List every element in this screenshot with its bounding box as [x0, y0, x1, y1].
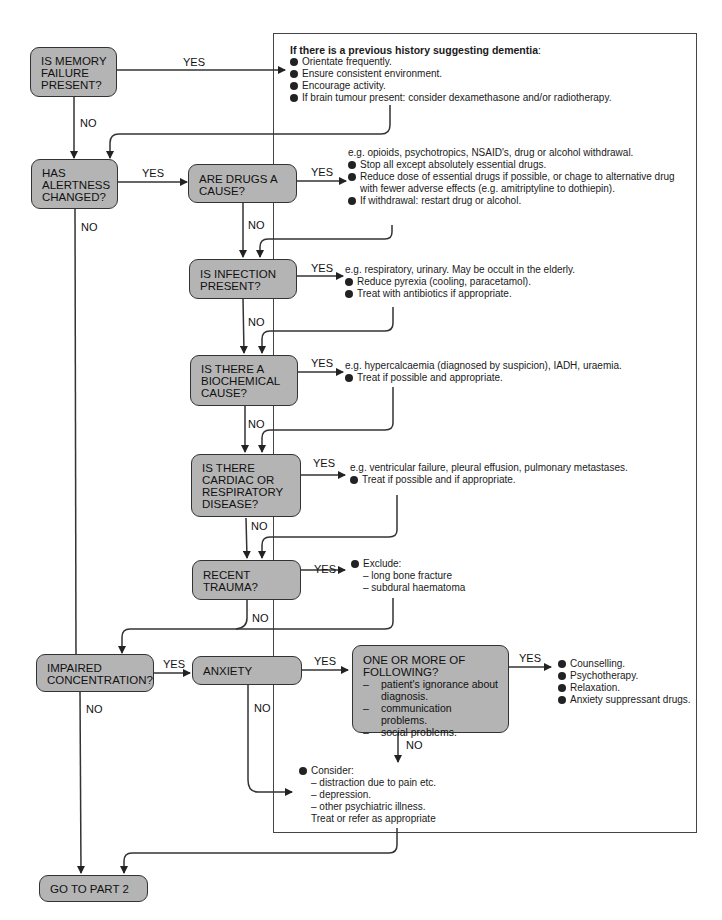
note-intro: e.g. ventricular failure, pleural effusi… — [350, 462, 628, 474]
note-biochemical: e.g. hypercalcaemia (diagnosed by suspic… — [345, 360, 622, 384]
bullet-item: Treat if possible and appropriate. — [345, 372, 622, 384]
note-footer: Treat or refer as appropriate — [299, 813, 436, 825]
bullet-item: Counselling. — [558, 658, 691, 670]
sub-item: – distraction due to pain etc. — [299, 777, 436, 789]
edge-label-no: NO — [86, 703, 103, 715]
node-text: ARE DRUGS A — [199, 173, 286, 185]
node-text: CARDIAC OR — [202, 474, 290, 486]
edge-label-yes: YES — [183, 56, 205, 68]
following-item: –communication problems. — [363, 702, 498, 726]
following-item: –patient's ignorance about — [363, 678, 498, 690]
bullet-item: Reduce pyrexia (cooling, paracetamol). — [345, 276, 575, 288]
edge-label-yes: YES — [314, 655, 336, 667]
edge-label-yes: YES — [519, 652, 541, 664]
sub-item: – long bone fracture — [351, 570, 465, 582]
note-intro: e.g. opioids, psychotropics, NSAID's, dr… — [348, 147, 675, 159]
bullet-item: Encourage activity. — [290, 80, 611, 92]
edge-label-yes: YES — [142, 167, 164, 179]
bullet-item: Reduce dose of essential drugs if possib… — [348, 171, 675, 183]
bullet-item: Stop all except absolutely essential dru… — [348, 159, 675, 171]
note-anxiety-interventions: Counselling. Psychotherapy. Relaxation. … — [558, 658, 691, 706]
edge-label-no: NO — [80, 117, 97, 129]
node-go-to-part-2: GO TO PART 2 — [39, 875, 148, 902]
bullet-item: Anxiety suppressant drugs. — [558, 694, 691, 706]
node-text: ANXIETY — [203, 665, 291, 677]
node-text: PRESENT? — [41, 79, 106, 91]
note-trauma: Exclude: – long bone fracture – subdural… — [351, 558, 465, 594]
node-text: BIOCHEMICAL — [201, 375, 287, 387]
following-item: –social problems. — [363, 726, 498, 738]
node-text: IS THERE — [202, 462, 290, 474]
node-text: CONCENTRATION? — [47, 674, 143, 686]
node-drugs-cause: ARE DRUGS A CAUSE? — [188, 164, 297, 203]
bullet-continuation: with fewer adverse effects (e.g. amitrip… — [348, 183, 675, 195]
node-anxiety: ANXIETY — [192, 656, 302, 685]
note-intro: e.g. respiratory, urinary. May be occult… — [345, 264, 575, 276]
node-text: DISEASE? — [202, 498, 290, 510]
node-cardiac-respiratory: IS THERE CARDIAC OR RESPIRATORY DISEASE? — [191, 454, 301, 517]
node-text: ONE OR MORE OF — [363, 654, 498, 666]
note-title: If there is a previous history suggestin… — [290, 44, 611, 56]
bullet-item: Ensure consistent environment. — [290, 68, 611, 80]
edge-label-no: NO — [406, 739, 423, 751]
node-text: IMPAIRED — [47, 662, 143, 674]
edge-label-no: NO — [251, 520, 268, 532]
edge-label-yes: YES — [311, 357, 333, 369]
node-text: FOLLOWING? — [363, 666, 498, 678]
note-consider: Consider: – distraction due to pain etc.… — [299, 765, 436, 825]
edge-label-yes: YES — [311, 166, 333, 178]
node-text: ALERTNESS — [42, 179, 107, 191]
node-infection-present: IS INFECTION PRESENT? — [189, 259, 297, 299]
node-recent-trauma: RECENT TRAUMA? — [192, 560, 301, 600]
bullet-item: If brain tumour present: consider dexame… — [290, 92, 611, 104]
note-infection: e.g. respiratory, urinary. May be occult… — [345, 264, 575, 300]
edge-label-no: NO — [252, 612, 269, 624]
node-text: CAUSE? — [199, 185, 286, 197]
node-biochemical-cause: IS THERE A BIOCHEMICAL CAUSE? — [190, 355, 298, 406]
node-text: IS THERE A — [201, 363, 287, 375]
node-text: GO TO PART 2 — [50, 883, 137, 895]
bullet-item: Relaxation. — [558, 682, 691, 694]
edge-label-no: NO — [248, 316, 265, 328]
note-intro: e.g. hypercalcaemia (diagnosed by suspic… — [345, 360, 622, 372]
note-cardiac: e.g. ventricular failure, pleural effusi… — [350, 462, 628, 486]
node-memory-failure: IS MEMORY FAILURE PRESENT? — [30, 47, 117, 97]
edge-label-yes: YES — [314, 563, 336, 575]
edge-label-yes: YES — [313, 457, 335, 469]
node-text: PRESENT? — [200, 280, 286, 292]
edge-label-no: NO — [248, 418, 265, 430]
edge-label-no: NO — [81, 221, 98, 233]
node-text: CHANGED? — [42, 191, 107, 203]
following-item-continuation: diagnosis. — [363, 690, 498, 702]
bullet-item: Exclude: — [351, 558, 465, 570]
edge-label-yes: YES — [311, 262, 333, 274]
sub-item: – subdural haematoma — [351, 582, 465, 594]
node-alertness-changed: HAS ALERTNESS CHANGED? — [31, 159, 118, 209]
node-text: FAILURE — [41, 67, 106, 79]
edge-label-no: NO — [254, 702, 271, 714]
bullet-item: Orientate frequently. — [290, 56, 611, 68]
bullet-item: Treat with antibiotics if appropriate. — [345, 288, 575, 300]
node-text: RECENT — [203, 569, 290, 581]
sub-item: – other psychiatric illness. — [299, 801, 436, 813]
note-dementia: If there is a previous history suggestin… — [290, 44, 611, 104]
bullet-item: Consider: — [299, 765, 436, 777]
node-text: HAS — [42, 167, 107, 179]
edge-label-yes: YES — [163, 658, 185, 670]
edge-label-no: NO — [248, 219, 265, 231]
note-drugs: e.g. opioids, psychotropics, NSAID's, dr… — [348, 147, 675, 207]
node-text: RESPIRATORY — [202, 486, 290, 498]
bullet-item: Treat if possible and if appropriate. — [350, 474, 628, 486]
bullet-item: Psychotherapy. — [558, 670, 691, 682]
sub-item: – depression. — [299, 789, 436, 801]
bullet-item: If withdrawal: restart drug or alcohol. — [348, 195, 675, 207]
node-text: CAUSE? — [201, 387, 287, 399]
node-one-or-more-following: ONE OR MORE OF FOLLOWING? –patient's ign… — [352, 645, 509, 733]
node-text: IS INFECTION — [200, 268, 286, 280]
node-text: TRAUMA? — [203, 581, 290, 593]
node-impaired-concentration: IMPAIRED CONCENTRATION? — [36, 654, 154, 692]
node-text: IS MEMORY — [41, 55, 106, 67]
